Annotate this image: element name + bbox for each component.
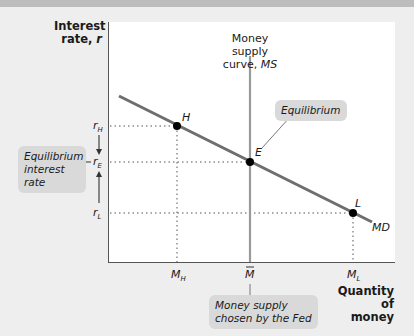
point-h: [173, 122, 181, 130]
tick-rl: rL: [93, 206, 101, 224]
tick-rh: rH: [93, 119, 103, 137]
x-axis-title: Quantity of money: [330, 285, 394, 324]
tick-mh: MH: [171, 268, 186, 286]
fed-money-supply-callout: Money supply chosen by the Fed: [209, 295, 318, 329]
point-l: [349, 209, 357, 217]
label-e: E: [255, 146, 262, 159]
tick-re: rE: [93, 155, 102, 173]
tick-mbar: M: [245, 268, 255, 281]
label-md: MD: [372, 221, 390, 234]
equilibrium-leader: [262, 117, 290, 148]
ms-curve-title: Money supply curve, MS: [212, 32, 288, 71]
tick-ml: ML: [347, 268, 360, 286]
point-e: [246, 158, 254, 166]
equilibrium-rate-callout: Equilibrium interest rate: [18, 146, 86, 193]
y-axis-title: Interest rate, r: [54, 20, 102, 46]
label-h: H: [182, 111, 190, 124]
equilibrium-callout: Equilibrium: [275, 100, 347, 121]
label-l: L: [355, 197, 361, 210]
